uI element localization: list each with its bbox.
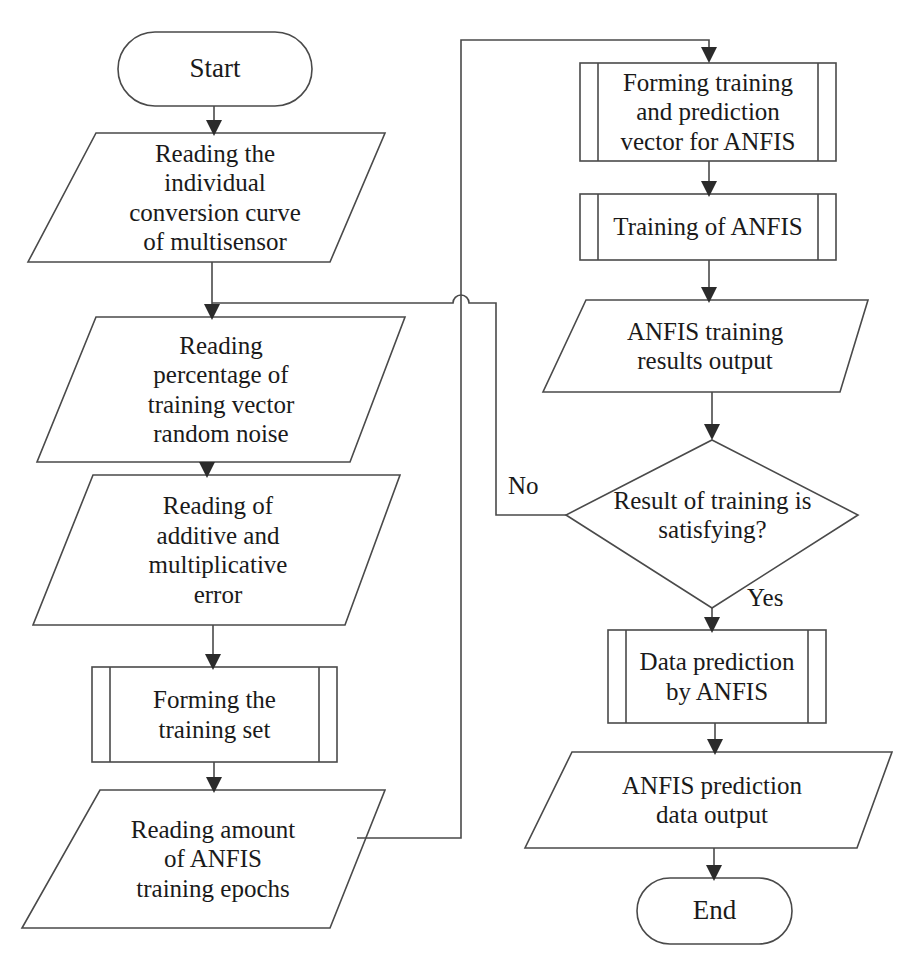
edge-train-out-to-decision-arrow bbox=[704, 424, 720, 440]
node-form-vectors-shape[interactable] bbox=[580, 63, 836, 161]
node-decision-shape[interactable] bbox=[566, 440, 858, 608]
flowchart-svg bbox=[0, 0, 918, 970]
edge-label-no: No bbox=[508, 473, 539, 498]
edge-label-yes: Yes bbox=[747, 585, 783, 610]
node-read-err-shape[interactable] bbox=[33, 475, 400, 625]
node-read-curve-shape[interactable] bbox=[28, 133, 385, 262]
node-end-shape[interactable] bbox=[637, 878, 792, 944]
node-form-set-shape[interactable] bbox=[92, 667, 337, 762]
node-read-epochs-shape[interactable] bbox=[22, 790, 385, 928]
node-train-anfis-shape[interactable] bbox=[580, 194, 836, 260]
node-train-out-shape[interactable] bbox=[543, 300, 868, 392]
edge-read-epochs-to-form-vectors-arrow bbox=[701, 47, 717, 63]
flowchart-canvas: Start Reading the individual conversion … bbox=[0, 0, 918, 970]
node-predict-out-shape[interactable] bbox=[525, 752, 892, 848]
node-start-shape[interactable] bbox=[118, 32, 312, 106]
node-read-pct-shape[interactable] bbox=[37, 317, 405, 462]
node-predict-shape[interactable] bbox=[608, 630, 826, 723]
